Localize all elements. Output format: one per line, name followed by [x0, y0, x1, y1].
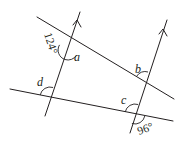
- angle-arc-c: [125, 104, 138, 112]
- angle-label-124: 124°: [42, 31, 60, 56]
- parallel-line-left: [45, 12, 80, 116]
- angle-label-b: b: [135, 62, 141, 76]
- angle-label-a: a: [74, 50, 80, 64]
- angle-label-d: d: [37, 75, 44, 89]
- transversal-lower: [10, 89, 173, 121]
- angle-label-c: c: [121, 93, 127, 107]
- angle-label-96: 96°: [136, 120, 156, 137]
- geometry-diagram: a b c d 124° 96°: [0, 0, 185, 145]
- transversal-upper: [37, 17, 174, 99]
